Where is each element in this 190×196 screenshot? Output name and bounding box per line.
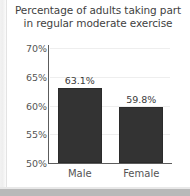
- y-axis-tick-label: 65%: [7, 71, 47, 82]
- y-axis-tick-label: 60%: [7, 100, 47, 111]
- y-axis-tick-label: 50%: [7, 158, 47, 169]
- x-axis-category-label: Male: [68, 168, 92, 179]
- x-axis-category-label: Female: [123, 168, 159, 179]
- bar-value-label: 63.1%: [65, 75, 95, 86]
- gridline: [50, 48, 170, 49]
- y-axis-tick-label: 55%: [7, 129, 47, 140]
- bar-female: [119, 107, 163, 163]
- bottom-band: [0, 189, 190, 196]
- bar-male: [58, 88, 102, 163]
- y-axis-tick-label: 70%: [7, 43, 47, 54]
- bar-value-label: 59.8%: [126, 94, 156, 105]
- plot-area: 50%55%60%65%70%63.1%Male59.8%Female: [0, 0, 190, 196]
- chart-figure: Percentage of adults taking part in regu…: [0, 0, 190, 196]
- y-axis-line: [48, 45, 49, 164]
- x-axis-line: [48, 163, 172, 164]
